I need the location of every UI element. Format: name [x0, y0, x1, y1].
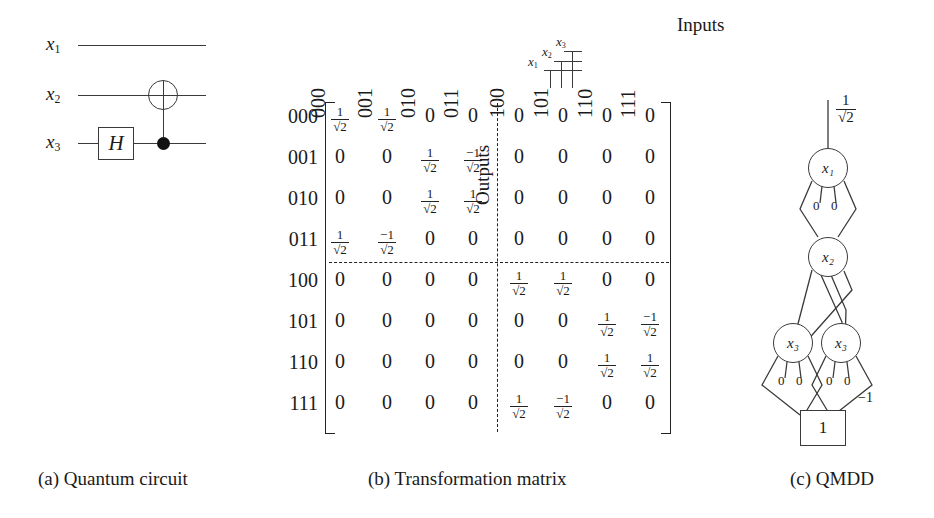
- matrix-cell-r5-c6: 1√2: [585, 310, 629, 338]
- matrix-cell-r3-c1: −1√2: [365, 228, 409, 256]
- key-tick-1: [550, 70, 551, 88]
- matrix-cell-r1-c3: −1√2: [451, 146, 495, 174]
- matrix-cell-r6-c1: 0: [365, 351, 409, 371]
- matrix-cell-r4-c4: 1√2: [497, 269, 541, 297]
- cnot-target-icon[interactable]: [148, 80, 178, 110]
- matrix-cell-r1-c2: 1√2: [408, 146, 452, 174]
- matrix-cell-r7-c5: −1√2: [541, 392, 585, 420]
- qmdd-edge-x1-outer-right: [838, 181, 856, 237]
- circuit-wire-x1: [78, 45, 206, 46]
- qmdd-edge-x1-stub-left: [820, 186, 822, 203]
- matrix-row-header-001: 001: [258, 146, 318, 169]
- key-label-x3: x3: [556, 34, 566, 50]
- matrix-cell-r4-c2: 0: [408, 269, 452, 289]
- matrix-cell-r6-c6: 1√2: [585, 351, 629, 379]
- matrix-cell-r3-c5: 0: [541, 228, 585, 248]
- matrix-cell-r5-c3: 0: [451, 310, 495, 330]
- qmdd-root-weight-label: 1 √2: [836, 93, 856, 126]
- matrix-cell-r5-c4: 0: [497, 310, 541, 330]
- matrix-cell-r1-c5: 0: [541, 146, 585, 166]
- matrix-inputs-label: Inputs: [677, 14, 725, 36]
- matrix-row-header-010: 010: [258, 187, 318, 210]
- matrix-cell-r0-c3: 0: [451, 105, 495, 125]
- matrix-cell-r6-c5: 0: [541, 351, 585, 371]
- key-label-x2: x2: [542, 44, 552, 60]
- qmdd-zero-stub-x3left-right: 0: [796, 373, 803, 389]
- matrix-cell-r0-c6: 0: [585, 105, 629, 125]
- qmdd-node-x3-right[interactable]: x₃: [821, 323, 861, 363]
- matrix-cell-r5-c2: 0: [408, 310, 452, 330]
- qmdd-edge-x3left-stub-left: [785, 362, 787, 378]
- cnot-control-dot-icon[interactable]: [157, 137, 170, 150]
- matrix-cell-r4-c5: 1√2: [541, 269, 585, 297]
- qmdd-zero-stub-x3right-right: 0: [844, 373, 851, 389]
- matrix-cell-r5-c5: 0: [541, 310, 585, 330]
- matrix-cell-r1-c4: 0: [497, 146, 541, 166]
- qmdd-node-x1[interactable]: x₁: [808, 148, 848, 188]
- qmdd-terminal-node[interactable]: 1: [800, 410, 846, 446]
- quantum-circuit-panel: x1 x2 x3 H: [0, 0, 270, 200]
- transformation-matrix-panel: Inputs Outputs x1 x2 x3 0000010100111001…: [240, 0, 690, 460]
- matrix-cell-r0-c4: 0: [497, 105, 541, 125]
- matrix-cell-r3-c6: 0: [585, 228, 629, 248]
- qmdd-edge-weight-negative-one: −1: [858, 390, 873, 406]
- matrix-cell-r7-c3: 0: [451, 392, 495, 412]
- qmdd-panel: 1 √2 x₁ x₂ x₃ x₃ 1 0 0 0 0 0 0 −1: [700, 85, 934, 460]
- matrix-cell-r2-c4: 0: [497, 187, 541, 207]
- matrix-row-header-100: 100: [258, 269, 318, 292]
- matrix-cell-r6-c4: 0: [497, 351, 541, 371]
- matrix-left-bracket: [325, 102, 335, 434]
- qmdd-node-x1-label: x₁: [822, 160, 834, 177]
- circuit-wire-label-x3: x3: [46, 131, 60, 155]
- matrix-cell-r2-c5: 0: [541, 187, 585, 207]
- matrix-cell-r1-c1: 0: [365, 146, 409, 166]
- qmdd-edge-x3right-stub-left: [833, 362, 835, 378]
- matrix-row-header-101: 101: [258, 310, 318, 333]
- matrix-cell-r0-c1: 1√2: [365, 105, 409, 133]
- caption-c: (c) QMDD: [790, 468, 874, 490]
- matrix-cell-r7-c4: 1√2: [497, 392, 541, 420]
- matrix-row-header-111: 111: [258, 392, 318, 415]
- matrix-cell-r0-c5: 0: [541, 105, 585, 125]
- matrix-cell-r2-c2: 1√2: [408, 187, 452, 215]
- matrix-cell-r3-c2: 0: [408, 228, 452, 248]
- matrix-block-divider-vertical: [497, 103, 498, 432]
- key-tick-2: [561, 61, 562, 88]
- qmdd-node-x3-left[interactable]: x₃: [773, 323, 813, 363]
- qmdd-node-x3-right-label: x₃: [835, 335, 847, 352]
- key-line-2: [554, 61, 582, 62]
- qmdd-zero-stub-x1-right: 0: [831, 198, 838, 214]
- matrix-cell-r1-c6: 0: [585, 146, 629, 166]
- matrix-cell-r4-c6: 0: [585, 269, 629, 289]
- qmdd-edge-x3right-outer-right: [834, 356, 872, 415]
- hadamard-gate[interactable]: H: [98, 127, 134, 160]
- qmdd-zero-stub-x3left-left: 0: [778, 373, 785, 389]
- circuit-wire-x2: [78, 95, 206, 96]
- key-tick-3: [572, 51, 573, 88]
- matrix-cell-r7-c1: 0: [365, 392, 409, 412]
- matrix-cell-r7-c6: 0: [585, 392, 629, 412]
- matrix-cell-r7-c2: 0: [408, 392, 452, 412]
- matrix-cell-r4-c1: 0: [365, 269, 409, 289]
- matrix-block-divider-horizontal: [329, 262, 669, 263]
- matrix-variable-order-key: x1 x2 x3: [528, 26, 590, 88]
- matrix-cell-r2-c3: 1√2: [451, 187, 495, 215]
- matrix-cell-r0-c2: 0: [408, 105, 452, 125]
- matrix-row-header-110: 110: [258, 351, 318, 374]
- matrix-cell-r2-c6: 0: [585, 187, 629, 207]
- hadamard-gate-label: H: [108, 131, 123, 156]
- caption-a: (a) Quantum circuit: [38, 468, 188, 490]
- qmdd-zero-stub-x1-left: 0: [813, 198, 820, 214]
- matrix-cell-r6-c2: 0: [408, 351, 452, 371]
- qmdd-node-x2-label: x₂: [822, 249, 834, 266]
- qmdd-node-x2[interactable]: x₂: [808, 237, 848, 277]
- key-label-x1: x1: [528, 54, 538, 70]
- matrix-cell-r2-c1: 0: [365, 187, 409, 207]
- qmdd-node-x3-left-label: x₃: [787, 335, 799, 352]
- matrix-row-header-000: 000: [258, 105, 318, 128]
- qmdd-root-weight-numerator: 1: [836, 93, 856, 109]
- qmdd-terminal-label: 1: [819, 418, 828, 438]
- matrix-cell-r5-c1: 0: [365, 310, 409, 330]
- circuit-wire-label-x1: x1: [46, 33, 60, 57]
- caption-b: (b) Transformation matrix: [368, 468, 566, 490]
